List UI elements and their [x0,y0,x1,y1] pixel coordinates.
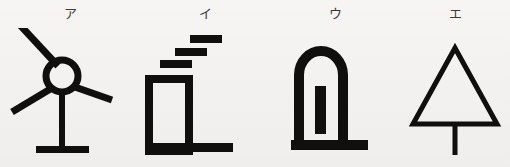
smoke-bar-middle [175,48,207,56]
choice-option-u[interactable]: ウ [270,0,400,167]
tree-symbol [400,28,510,163]
figure-sheet: ア イ [0,0,510,167]
turbine-blade-lower-left [12,88,52,112]
turbine-blade-right [72,86,112,100]
turbine-base [36,146,89,153]
choice-label-i: イ [140,6,270,21]
tree-canopy-triangle [413,48,497,124]
choice-label-u: ウ [270,6,400,21]
choice-option-i[interactable]: イ [140,0,270,167]
arch-ground-line [291,140,368,150]
choice-option-e[interactable]: エ [400,0,510,167]
choice-option-a[interactable]: ア [0,0,140,167]
arch-inner-bar [315,86,326,134]
factory-symbol [140,28,270,163]
arch-monument-symbol [270,28,400,163]
factory-building-outline [149,79,189,151]
choice-label-a: ア [0,6,140,21]
factory-ground-line [145,143,233,152]
wind-turbine-symbol [0,28,140,163]
turbine-hub [46,60,78,92]
choice-label-e: エ [400,6,510,21]
smoke-bar-lower [160,60,192,68]
smoke-bar-upper [190,35,222,43]
